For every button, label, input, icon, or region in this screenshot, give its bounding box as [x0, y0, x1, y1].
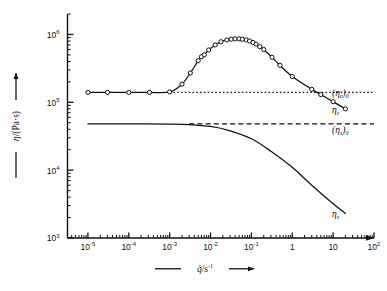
y-axis-major-ticks — [68, 34, 74, 238]
x-axis-label-text: q̇/s-1 — [197, 263, 213, 274]
y-tick-mantissa: 10 — [47, 30, 57, 40]
x-tick-label: 10-2 — [203, 241, 218, 252]
x-tick-label: 10-1 — [244, 241, 259, 252]
x-tick-mantissa: 10 — [203, 242, 213, 252]
annotation-eta-s: ηs — [332, 209, 340, 221]
x-tick-mantissa: 10 — [368, 242, 378, 252]
x-tick-exponent: -2 — [213, 241, 219, 247]
x-axis-label-exponent: -1 — [208, 263, 213, 269]
x-axis-label-arrowhead — [248, 266, 255, 271]
data-point-marker — [127, 90, 131, 94]
y-axis-label-group: η/(Pa·s) — [11, 72, 22, 178]
data-point-marker — [310, 87, 314, 91]
data-point-marker — [225, 38, 229, 42]
x-tick-mantissa: 10 — [328, 242, 338, 252]
data-point-marker — [196, 59, 200, 63]
x-tick-label: 1 — [290, 242, 295, 252]
annotation-eta-e-zero: (ηe)0 — [332, 88, 349, 100]
y-tick-exponent: 4 — [56, 165, 60, 171]
x-tick-label: 10 — [328, 242, 338, 252]
y-axis-tick-labels: 106105104103 — [47, 29, 60, 243]
y-tick-label: 106 — [47, 29, 60, 40]
y-axis-label-arrowhead — [14, 72, 19, 79]
data-point-marker — [270, 55, 274, 59]
x-tick-label: 10-4 — [121, 241, 136, 252]
data-point-marker — [147, 90, 151, 94]
data-point-marker — [290, 74, 294, 78]
y-tick-exponent: 6 — [56, 29, 60, 35]
data-point-marker — [278, 63, 282, 67]
x-tick-mantissa: 10 — [81, 242, 91, 252]
y-tick-mantissa: 10 — [47, 233, 57, 243]
y-tick-label: 105 — [47, 97, 60, 108]
x-tick-mantissa: 10 — [244, 242, 254, 252]
data-point-marker — [319, 92, 323, 96]
data-point-marker — [86, 90, 90, 94]
y-tick-exponent: 5 — [56, 97, 60, 103]
curve-series-0 — [88, 39, 345, 109]
data-point-marker — [105, 90, 109, 94]
x-tick-exponent: -3 — [172, 241, 178, 247]
annotation-subscript: e — [337, 110, 340, 116]
x-tick-exponent: -5 — [90, 241, 96, 247]
data-point-marker — [219, 40, 223, 44]
data-point-marker — [331, 100, 335, 104]
x-tick-exponent: -4 — [131, 241, 137, 247]
y-axis-label-units: /(Pa·s) — [11, 111, 22, 136]
data-point-marker — [213, 43, 217, 47]
rheology-chart: 106105104103 10-510-410-310-210-1110102 … — [0, 0, 387, 291]
annotation-subscript-zero: 0 — [346, 93, 349, 99]
x-tick-label: 10-5 — [81, 241, 96, 252]
data-point-marker — [180, 82, 184, 86]
x-tick-exponent: 2 — [377, 241, 381, 247]
data-point-marker — [168, 90, 172, 94]
annotation-subscript: s — [337, 214, 340, 220]
annotation-subscript-zero: 0 — [345, 130, 348, 136]
annotation-eta-s-zero: (ηs)0 — [332, 125, 348, 137]
figure-root: 106105104103 10-510-410-310-210-1110102 … — [0, 0, 387, 291]
curve-series-1 — [88, 124, 345, 214]
y-tick-label: 103 — [47, 233, 60, 244]
data-point-marker — [258, 45, 262, 49]
annotation-eta-e: ηe — [332, 105, 340, 117]
y-axis-label-text: η/(Pa·s) — [11, 111, 22, 141]
y-tick-mantissa: 10 — [47, 166, 57, 176]
x-tick-mantissa: 10 — [121, 242, 131, 252]
x-axis-label-group: q̇/s-1 — [155, 263, 255, 274]
data-point-marker — [207, 48, 211, 52]
data-curves-group — [88, 39, 345, 214]
y-tick-mantissa: 10 — [47, 98, 57, 108]
data-point-marker — [262, 47, 266, 51]
x-tick-label: 102 — [368, 241, 381, 252]
x-tick-label: 10-3 — [162, 241, 177, 252]
y-tick-exponent: 3 — [56, 233, 60, 239]
data-point-marker — [188, 71, 192, 75]
axes-group — [68, 14, 375, 241]
x-tick-mantissa: 10 — [162, 242, 172, 252]
y-tick-label: 104 — [47, 165, 60, 176]
data-point-marker — [343, 107, 347, 111]
x-axis-tick-labels: 10-510-410-310-210-1110102 — [81, 241, 382, 252]
data-point-marker — [202, 53, 206, 57]
x-tick-mantissa: 1 — [290, 242, 295, 252]
x-tick-exponent: -1 — [253, 241, 259, 247]
data-markers-group — [86, 37, 348, 111]
